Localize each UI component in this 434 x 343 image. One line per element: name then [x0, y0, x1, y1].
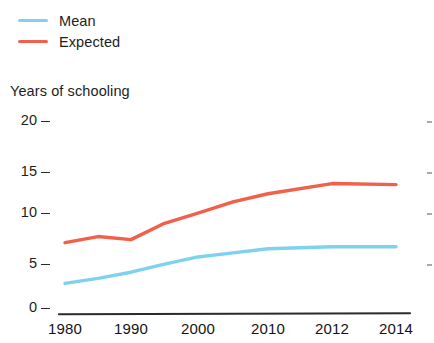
series-line-mean	[65, 247, 396, 284]
x-axis-tick-2010: 2010	[251, 320, 285, 337]
x-axis-tick-1990: 1990	[114, 320, 148, 337]
chart-plot-area	[0, 0, 434, 343]
x-axis-tick-2012: 2012	[315, 320, 349, 337]
x-axis-line	[59, 313, 410, 314]
x-axis-tick-2014: 2014	[379, 320, 413, 337]
x-axis-tick-2000: 2000	[181, 320, 215, 337]
years-of-schooling-line-chart: Mean Expected Years of schooling 20 15 1…	[0, 0, 434, 343]
series-line-expected	[65, 184, 396, 243]
x-axis-tick-1980: 1980	[48, 320, 82, 337]
